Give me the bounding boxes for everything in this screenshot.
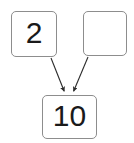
part-left-value: 2 [26,18,43,50]
arrow-left-to-sum [51,58,64,91]
whole-box[interactable]: 10 [42,95,97,139]
arrow-right-to-sum [74,57,88,91]
part-box-right-empty[interactable] [83,11,127,56]
whole-value: 10 [53,101,86,133]
number-bond-diagram: 2 10 [0,0,134,143]
part-box-left[interactable]: 2 [11,11,57,57]
